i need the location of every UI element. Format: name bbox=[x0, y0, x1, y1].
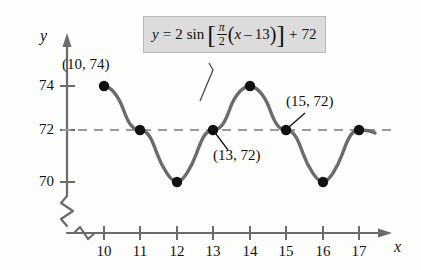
equation-equals: = bbox=[163, 27, 171, 42]
x-tick-label-11: 11 bbox=[125, 243, 155, 260]
equation-phase: 13 bbox=[255, 27, 270, 42]
equation-frac-denominator: 2 bbox=[217, 35, 227, 48]
equation-bracket-open: [ bbox=[207, 25, 216, 46]
equation-lhs: y bbox=[152, 27, 159, 42]
equation-minus: – bbox=[244, 27, 252, 42]
x-tick-label-17: 17 bbox=[344, 243, 374, 260]
x-axis-break-icon bbox=[67, 227, 102, 239]
equation-function: sin bbox=[187, 27, 205, 42]
x-tick-label-10: 10 bbox=[89, 243, 119, 260]
equation-label-box: y = 2 sin [ π 2 ( x – 13 ) ] + 72 bbox=[143, 16, 326, 53]
data-point bbox=[318, 177, 328, 187]
equation-plus: + bbox=[289, 27, 297, 42]
equation-leader-line bbox=[200, 63, 213, 101]
equation-bracket-close: ] bbox=[276, 25, 285, 46]
data-point bbox=[135, 125, 145, 135]
data-point bbox=[172, 177, 182, 187]
x-tick-label-12: 12 bbox=[162, 243, 192, 260]
x-axis bbox=[67, 226, 392, 240]
equation-fraction: π 2 bbox=[217, 21, 227, 47]
equation-vertical-shift: 72 bbox=[302, 27, 317, 42]
x-tick-label-15: 15 bbox=[271, 243, 301, 260]
callout-13-72: (13, 72) bbox=[213, 147, 261, 164]
data-point bbox=[245, 81, 255, 91]
equation-paren-open: ( bbox=[228, 26, 235, 42]
equation-frac-numerator: π bbox=[217, 21, 227, 35]
equation-amplitude: 2 bbox=[175, 27, 183, 42]
x-axis-name: x bbox=[394, 238, 401, 256]
equation-paren-close: ) bbox=[270, 26, 277, 42]
callout-15-72: (15, 72) bbox=[286, 93, 334, 110]
data-point bbox=[354, 125, 364, 135]
y-axis-name: y bbox=[40, 27, 47, 45]
y-tick-label-70: 70 bbox=[20, 173, 54, 190]
data-point bbox=[99, 81, 109, 91]
x-tick-label-14: 14 bbox=[235, 243, 265, 260]
sine-curve bbox=[104, 86, 375, 182]
data-point bbox=[281, 125, 291, 135]
callout-leader-15-72 bbox=[289, 113, 305, 127]
equation-variable: x bbox=[235, 27, 242, 42]
callout-10-74: (10, 74) bbox=[62, 56, 110, 73]
y-tick-label-72: 72 bbox=[20, 121, 54, 138]
y-tick-label-74: 74 bbox=[20, 77, 54, 94]
sine-graph-figure: y = 2 sin [ π 2 ( x – 13 ) ] + 72 74 72 … bbox=[0, 0, 421, 270]
x-tick-label-16: 16 bbox=[308, 243, 338, 260]
data-point bbox=[208, 125, 218, 135]
y-axis-break-icon bbox=[61, 196, 73, 226]
x-tick-label-13: 13 bbox=[198, 243, 228, 260]
